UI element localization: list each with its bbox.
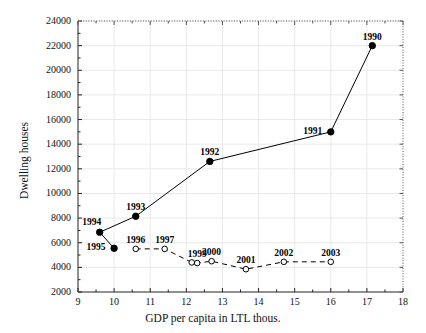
- data-point-2000[interactable]: [209, 258, 215, 264]
- x-tick-label: 16: [319, 296, 343, 307]
- data-point-1994[interactable]: [96, 229, 102, 235]
- y-tick-label: 14000: [0, 138, 71, 149]
- point-label-1997: 1997: [155, 235, 174, 245]
- point-label-2001: 2001: [236, 255, 255, 265]
- point-label-2003: 2003: [321, 248, 340, 258]
- point-label-1990: 1990: [363, 32, 382, 42]
- y-tick-label: 10000: [0, 187, 71, 198]
- x-axis-title: GDP per capita in LTL thous.: [0, 312, 426, 324]
- y-tick-label: 18000: [0, 89, 71, 100]
- y-tick-label: 20000: [0, 64, 71, 75]
- data-point-1996[interactable]: [133, 246, 139, 252]
- data-point-1999[interactable]: [194, 260, 200, 266]
- x-tick-label: 11: [138, 296, 162, 307]
- x-tick-label: 18: [391, 296, 415, 307]
- x-tick-label: 13: [210, 296, 234, 307]
- point-label-2000: 2000: [202, 247, 221, 257]
- x-tick-label: 9: [66, 296, 90, 307]
- y-axis-title: Dwelling houses: [18, 122, 30, 199]
- x-tick-label: 15: [283, 296, 307, 307]
- y-tick-label: 24000: [0, 15, 71, 26]
- x-tick-label: 17: [355, 296, 379, 307]
- data-point-2002[interactable]: [281, 259, 287, 265]
- point-label-1991: 1991: [303, 126, 322, 136]
- data-point[interactable]: [189, 260, 195, 266]
- data-point-2003[interactable]: [328, 259, 334, 265]
- y-tick-label: 22000: [0, 40, 71, 51]
- y-tick-label: 6000: [0, 237, 71, 248]
- y-tick-label: 12000: [0, 163, 71, 174]
- point-label-1994: 1994: [82, 217, 101, 227]
- x-tick-label: 10: [102, 296, 126, 307]
- point-label-1996: 1996: [126, 235, 145, 245]
- data-point-1992[interactable]: [207, 158, 213, 164]
- y-tick-label: 8000: [0, 212, 71, 223]
- x-tick-label: 12: [174, 296, 198, 307]
- point-label-1993: 1993: [126, 202, 145, 212]
- y-tick-label: 2000: [0, 286, 71, 297]
- y-tick-label: 4000: [0, 261, 71, 272]
- point-label-1995: 1995: [87, 242, 106, 252]
- point-label-1992: 1992: [200, 147, 219, 157]
- point-label-2002: 2002: [274, 248, 293, 258]
- data-point-1997[interactable]: [162, 246, 168, 252]
- data-point-1990[interactable]: [369, 42, 375, 48]
- data-point-1995[interactable]: [111, 245, 117, 251]
- x-tick-label: 14: [247, 296, 271, 307]
- y-tick-label: 16000: [0, 114, 71, 125]
- data-point-1993[interactable]: [133, 213, 139, 219]
- chart-figure: 1990199119921993199419951996199719992000…: [0, 0, 426, 333]
- data-point-1991[interactable]: [328, 129, 334, 135]
- data-point-2001[interactable]: [243, 266, 249, 272]
